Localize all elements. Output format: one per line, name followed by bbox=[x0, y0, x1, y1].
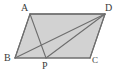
vertex-label-b: B bbox=[4, 53, 11, 63]
vertex-label-p: P bbox=[42, 61, 48, 71]
geometry-figure: A D B P C bbox=[0, 0, 120, 72]
geometry-canvas bbox=[0, 0, 120, 72]
vertex-label-c: C bbox=[92, 55, 98, 65]
vertex-label-d: D bbox=[105, 3, 112, 13]
vertex-label-a: A bbox=[21, 3, 28, 13]
